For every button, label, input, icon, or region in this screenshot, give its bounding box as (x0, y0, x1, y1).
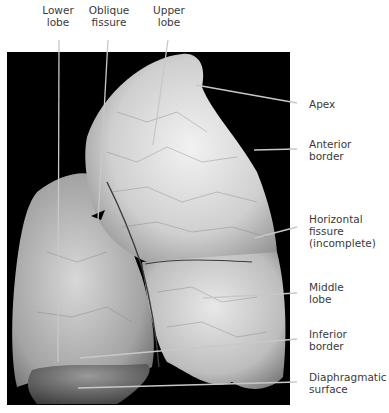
label-line: Oblique (84, 4, 134, 16)
label-line: surface (309, 383, 387, 395)
label-line: (incomplete) (309, 237, 376, 249)
lung-illustration (7, 52, 290, 405)
label-line: fissure (84, 16, 134, 28)
label-line: Middle (309, 281, 344, 293)
label-upper-lobe: Upper lobe (148, 4, 190, 28)
label-line: border (309, 340, 347, 352)
label-line: lobe (148, 16, 190, 28)
label-line: lobe (36, 16, 80, 28)
label-line: border (309, 150, 351, 162)
label-oblique-fissure: Oblique fissure (84, 4, 134, 28)
middle-lobe-shape (142, 252, 285, 389)
label-line: Lower (36, 4, 80, 16)
label-anterior-border: Anterior border (309, 138, 351, 162)
diaphragmatic-surface-shape (28, 364, 150, 404)
label-line: Inferior (309, 328, 347, 340)
upper-lobe-shape (85, 54, 277, 262)
label-line: Horizontal (309, 213, 376, 225)
label-middle-lobe: Middle lobe (309, 281, 344, 305)
label-inferior-border: Inferior border (309, 328, 347, 352)
label-line: Anterior (309, 138, 351, 150)
label-apex: Apex (309, 98, 335, 110)
label-line: Diaphragmatic (309, 371, 387, 383)
label-diaphragmatic-surface: Diaphragmatic surface (309, 371, 387, 395)
label-line: Apex (309, 98, 335, 110)
label-horizontal-fissure: Horizontal fissure (incomplete) (309, 213, 376, 249)
label-line: Upper (148, 4, 190, 16)
label-lower-lobe: Lower lobe (36, 4, 80, 28)
label-line: fissure (309, 225, 376, 237)
label-line: lobe (309, 293, 344, 305)
lung-photograph (7, 52, 290, 405)
